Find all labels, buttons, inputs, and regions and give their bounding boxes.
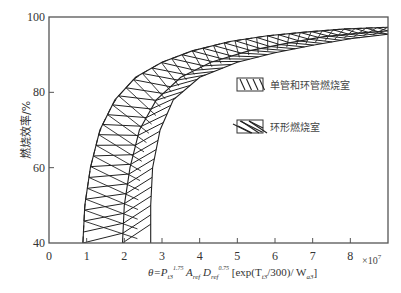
hatch-cap-can-annular [224, 42, 230, 43]
hatch-cap-can-annular [85, 204, 86, 211]
hatch-line-annular [261, 49, 287, 51]
inner-boundary-curve [151, 34, 388, 243]
hatch-line-annular [136, 131, 160, 145]
x-tick-label: 2 [121, 249, 127, 263]
hatch-cap-can-annular [142, 70, 148, 73]
y-tick-label: 60 [33, 161, 45, 175]
y-axis-label: 燃烧效率/% [19, 101, 33, 159]
y-tick-label: 100 [27, 10, 45, 24]
legend-item-can-annular: 单管和环管燃烧室 [237, 78, 350, 91]
hatch-cap-can-annular [87, 182, 88, 189]
hatch-cap-can-annular [322, 30, 329, 31]
hatch-cap-can-annular [126, 83, 130, 88]
hatch-cap-can-annular [108, 109, 111, 115]
hatch-line-annular [123, 205, 150, 223]
y-tick-label: 80 [33, 85, 45, 99]
hatch-line-can-annular [366, 28, 378, 32]
hatch-cap-can-annular [278, 34, 285, 35]
x-tick-label: 3 [159, 249, 165, 263]
hatch-cap-can-annular [119, 91, 123, 96]
hatch-line-annular [319, 37, 342, 40]
hatch-line-can-annular [83, 233, 123, 243]
hatch-cap-can-annular [300, 32, 307, 33]
hatch-cross-annular [89, 177, 138, 199]
hatch-line-annular [280, 45, 305, 47]
x-tick-label: 8 [347, 249, 353, 263]
hatch-cap-can-annular [86, 193, 87, 200]
hatch-line-annular [299, 41, 323, 43]
hatch-line-annular [241, 53, 268, 54]
hatch-cap-can-annular [182, 52, 188, 54]
hatch-cross-annular [182, 55, 194, 75]
x-tick-label: 5 [234, 249, 240, 263]
hatch-line-annular [270, 47, 295, 49]
hatch-line-annular [178, 75, 206, 80]
hatch-line-annular [251, 50, 277, 52]
hatch-cap-can-annular [103, 119, 106, 125]
hatch-line-can-annular [344, 29, 358, 33]
combustion-efficiency-chart: 012345678 406080100 燃烧效率/% θ=Pt31.75 Are… [0, 0, 401, 293]
hatch-cap-can-annular [268, 35, 275, 36]
x-tick-label: 6 [272, 249, 278, 263]
x-tick-label: 4 [197, 249, 203, 263]
hatch-line-annular [290, 43, 314, 45]
hatch-cross-annular [277, 35, 278, 49]
hatch-line-can-annular [355, 29, 368, 33]
hatch-line-annular [124, 196, 151, 213]
legend-label-annular: 环形燃烧室 [270, 121, 320, 133]
hatch-line-annular [122, 224, 150, 243]
x-axis-ticks: 012345678 [46, 238, 353, 263]
hatch-cap-can-annular [235, 40, 242, 41]
hatch-line-annular [309, 39, 332, 42]
hatch-cross-annular [87, 188, 138, 209]
x-tick-label: 1 [84, 249, 90, 263]
legend-item-annular: 环形燃烧室 [233, 120, 320, 133]
x-tick-label: 7 [310, 249, 316, 263]
hatch-cap-can-annular [152, 65, 158, 68]
hatch-cross-annular [119, 96, 152, 124]
legend-label-can-annular: 单管和环管燃烧室 [270, 79, 350, 91]
hatch-line-annular [123, 215, 151, 233]
hatch-cap-can-annular [311, 31, 318, 32]
x-axis-label: θ=Pt31.75 Aref Dref0.75 [exp(Tt3/300)/ W… [148, 265, 317, 281]
hatch-cap-can-annular [289, 33, 296, 34]
y-tick-label: 40 [33, 236, 45, 250]
hatch-cap-can-annular [89, 171, 90, 178]
legend: 单管和环管燃烧室 环形燃烧室 [233, 78, 350, 133]
hatch-cap-can-annular [161, 60, 167, 62]
hatch-cap-can-annular [257, 36, 264, 37]
hatch-cap-can-annular [172, 56, 178, 58]
efficiency-bands [83, 27, 388, 243]
hatch-cap-can-annular [246, 38, 253, 39]
hatch-line-annular [232, 56, 259, 57]
x-axis-multiplier: ×107 [362, 253, 382, 266]
x-tick-label: 0 [46, 249, 52, 263]
hatch-cross-annular [246, 39, 249, 55]
hatch-cross-annular [112, 105, 148, 133]
